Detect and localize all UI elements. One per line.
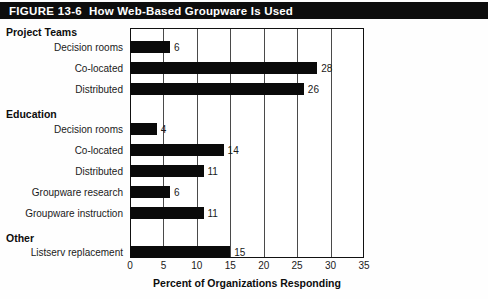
table-row: Decision rooms 4 (0, 122, 488, 137)
bar-value: 6 (170, 40, 180, 55)
bar-value: 28 (317, 61, 332, 76)
bar-value: 14 (224, 143, 239, 158)
x-tick: 30 (325, 260, 336, 271)
x-tick: 20 (258, 260, 269, 271)
x-tick: 25 (292, 260, 303, 271)
bar-value: 15 (230, 245, 245, 260)
table-row: Co-located 14 (0, 143, 488, 158)
bar-label: Decision rooms (0, 122, 126, 137)
bar[interactable] (130, 144, 224, 156)
bar-label: Groupware research (0, 185, 126, 200)
table-row: Decision rooms 6 (0, 40, 488, 55)
bar[interactable] (130, 165, 204, 177)
x-tick: 0 (127, 260, 133, 271)
bar-label: Distributed (0, 164, 126, 179)
bar-chart: Project Teams Decision rooms 6 Co-locate… (0, 19, 488, 299)
table-row: Co-located 28 (0, 61, 488, 76)
group-heading-education: Education (6, 108, 57, 120)
bar-value: 4 (157, 122, 167, 137)
x-axis-title: Percent of Organizations Responding (130, 277, 364, 289)
bar[interactable] (130, 123, 157, 135)
table-row: Distributed 11 (0, 164, 488, 179)
group-heading-project-teams: Project Teams (6, 26, 77, 38)
bar-label: Co-located (0, 61, 126, 76)
figure-title-bar: FIGURE 13-6 How Web-Based Groupware Is U… (0, 2, 488, 19)
x-tick: 5 (161, 260, 167, 271)
bar-value: 11 (204, 164, 218, 179)
bar-value: 11 (204, 206, 218, 221)
bar[interactable] (130, 83, 304, 95)
bar-label: Co-located (0, 143, 126, 158)
bar[interactable] (130, 62, 317, 74)
bar-value: 26 (304, 82, 319, 97)
table-row: Groupware instruction 11 (0, 206, 488, 221)
bar[interactable] (130, 41, 170, 53)
figure-caption: How Web-Based Groupware Is Used (89, 5, 293, 17)
x-tick: 10 (191, 260, 202, 271)
table-row: Groupware research 6 (0, 185, 488, 200)
figure-number: FIGURE 13-6 (9, 5, 82, 17)
x-tick: 15 (225, 260, 236, 271)
bar-value: 6 (170, 185, 180, 200)
bar-label: Decision rooms (0, 40, 126, 55)
bar-label: Listserv replacement (0, 245, 126, 260)
bar[interactable] (130, 246, 230, 258)
bar[interactable] (130, 207, 204, 219)
table-row: Distributed 26 (0, 82, 488, 97)
group-heading-other: Other (6, 232, 34, 244)
bar-label: Distributed (0, 82, 126, 97)
bar-label: Groupware instruction (0, 206, 126, 221)
table-row: Listserv replacement 15 (0, 245, 488, 260)
x-tick: 35 (358, 260, 369, 271)
bar[interactable] (130, 186, 170, 198)
x-axis-tick-labels: 0 5 10 15 20 25 30 35 (130, 260, 364, 274)
